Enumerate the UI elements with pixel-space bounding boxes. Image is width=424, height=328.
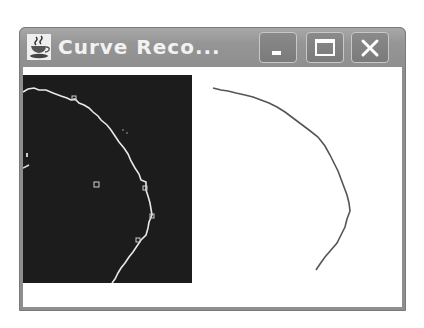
close-icon (359, 37, 381, 59)
close-button[interactable] (351, 32, 389, 63)
client-area (23, 67, 402, 307)
edge-image-curve (23, 88, 154, 283)
curve-canvas (23, 67, 402, 307)
title-bar[interactable]: Curve Reco... (20, 28, 405, 67)
app-window: Curve Reco... (19, 27, 406, 311)
maximize-button[interactable] (306, 32, 344, 63)
minimize-icon (268, 38, 288, 58)
window-title: Curve Reco... (58, 34, 221, 60)
reconstructed-curve (213, 88, 350, 270)
java-coffee-cup-icon[interactable] (27, 34, 51, 60)
minimize-button[interactable] (259, 32, 297, 63)
maximize-icon (314, 38, 336, 58)
